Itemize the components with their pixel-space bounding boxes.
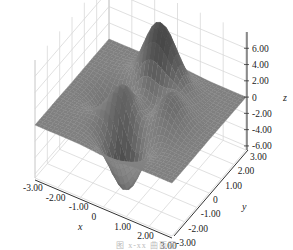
z-tick-label: 6.00 [252,44,269,54]
z-axis-label: z [282,92,287,103]
x-tick-label: 0 [92,212,97,222]
x-axis-label: x [77,221,83,232]
surface-plot-canvas: -3.00-2.00-1.0001.002.003.00 -3.00-2.00-… [0,0,293,250]
x-tick-label: 1.00 [114,222,131,232]
peaks-surface [35,22,246,189]
z-tick-label: 2.00 [252,76,269,86]
y-axis-label: y [241,201,247,212]
y-axis-ticks: -3.00-2.00-1.0001.002.003.00 [176,152,267,248]
surface-plot-figure: -3.00-2.00-1.0001.002.003.00 -3.00-2.00-… [0,0,293,250]
x-tick-label: -3.00 [23,183,43,193]
y-tick-label: 3.00 [250,152,267,162]
y-tick-label: -2.00 [188,224,208,234]
z-tick-label: 0 [252,93,257,103]
y-tick-label: -1.00 [201,209,221,219]
x-tick-label: -2.00 [46,193,66,203]
z-tick-label: -6.00 [252,141,272,151]
z-axis-ticks: -6.00-4.00-2.0002.004.006.00 [244,44,272,152]
z-tick-label: -4.00 [252,125,272,135]
y-tick-label: 2.00 [238,166,255,176]
z-tick-label: 4.00 [252,60,269,70]
y-tick-label: 0 [213,195,218,205]
y-tick-label: 1.00 [225,181,242,191]
x-tick-label: -1.00 [69,202,89,212]
z-tick-label: -2.00 [252,109,272,119]
figure-caption: 图 x-xx 曲面图 [0,239,293,250]
